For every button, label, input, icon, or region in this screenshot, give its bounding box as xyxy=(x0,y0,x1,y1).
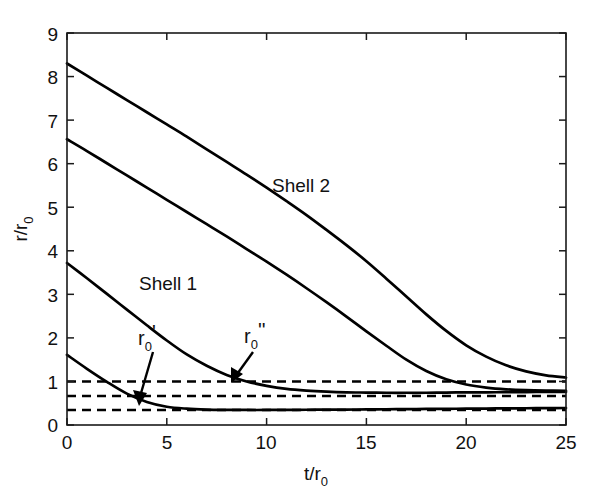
x-axis-title-base: t/r xyxy=(304,463,322,484)
y-axis-title-subscript: 0 xyxy=(21,216,36,223)
y-tick-label-8: 8 xyxy=(47,67,58,88)
x-tick-label-25: 25 xyxy=(555,432,576,453)
y-tick-label-7: 7 xyxy=(47,111,58,132)
y-tick-label-6: 6 xyxy=(47,154,58,175)
shell-2-label: Shell 2 xyxy=(272,175,330,196)
x-tick-label-0: 0 xyxy=(62,432,73,453)
y-tick-label-3: 3 xyxy=(47,285,58,306)
y-tick-label-2: 2 xyxy=(47,328,58,349)
r0-dprime-subscript: 0 xyxy=(251,337,258,352)
x-axis-title: t/r0 xyxy=(304,463,328,489)
chart-canvas: 0 5 10 15 20 25 0 1 2 3 4 5 6 7 8 9 t/r0… xyxy=(0,0,603,493)
r0-prime-subscript: 0 xyxy=(145,339,152,354)
r0-prime-superscript: ' xyxy=(152,321,156,343)
plot-background xyxy=(67,33,566,425)
x-tick-label-10: 10 xyxy=(255,432,276,453)
y-axis-title-base: r/r xyxy=(10,223,31,242)
y-tick-label-9: 9 xyxy=(47,24,58,45)
r0-dprime-superscript: '' xyxy=(258,319,266,341)
y-axis-title: r/r0 xyxy=(10,216,36,241)
y-tick-label-0: 0 xyxy=(47,415,58,436)
y-tick-label-1: 1 xyxy=(47,372,58,393)
x-tick-label-5: 5 xyxy=(162,432,173,453)
figure-container: 0 5 10 15 20 25 0 1 2 3 4 5 6 7 8 9 t/r0… xyxy=(0,0,603,493)
x-tick-label-20: 20 xyxy=(455,432,476,453)
y-tick-label-4: 4 xyxy=(47,241,58,262)
shell-1-label: Shell 1 xyxy=(139,273,197,294)
x-tick-label-15: 15 xyxy=(355,432,376,453)
y-tick-label-5: 5 xyxy=(47,198,58,219)
x-axis-title-subscript: 0 xyxy=(321,474,328,489)
